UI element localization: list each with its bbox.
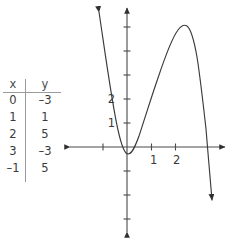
- table-row: –1 5: [0, 160, 64, 177]
- figure-canvas: x y 0 –3 1 1 2 5 3 –3: [0, 0, 239, 240]
- x-tick-label-2: 2: [173, 153, 180, 167]
- x-tick-label-1: 1: [150, 153, 157, 167]
- cell-y: 5: [26, 160, 64, 177]
- column-header-y: y: [26, 78, 64, 92]
- cell-x: 1: [0, 109, 26, 126]
- table-row: 1 1: [0, 109, 64, 126]
- xy-value-table: x y 0 –3 1 1 2 5 3 –3: [0, 78, 64, 184]
- table-row: 2 5: [0, 126, 64, 143]
- y-axis: [124, 8, 131, 232]
- column-header-x: x: [0, 78, 26, 92]
- cubic-curve: [99, 12, 212, 200]
- cell-y: –3: [26, 143, 64, 160]
- cell-x: 3: [0, 143, 26, 160]
- coordinate-plane: 2 1 1 2: [62, 0, 239, 240]
- table-header-row: x y: [0, 78, 64, 92]
- y-tick-label-1: 1: [108, 116, 115, 130]
- table-row: 0 –3: [0, 92, 64, 109]
- table-column-divider: [25, 79, 26, 182]
- table-header-rule: [3, 92, 61, 93]
- cell-y: –3: [26, 92, 64, 109]
- cell-x: –1: [0, 160, 26, 177]
- cell-y: 5: [26, 126, 64, 143]
- cell-x: 0: [0, 92, 26, 109]
- cell-x: 2: [0, 126, 26, 143]
- table-row: 3 –3: [0, 143, 64, 160]
- x-axis: [70, 144, 225, 151]
- cell-y: 1: [26, 109, 64, 126]
